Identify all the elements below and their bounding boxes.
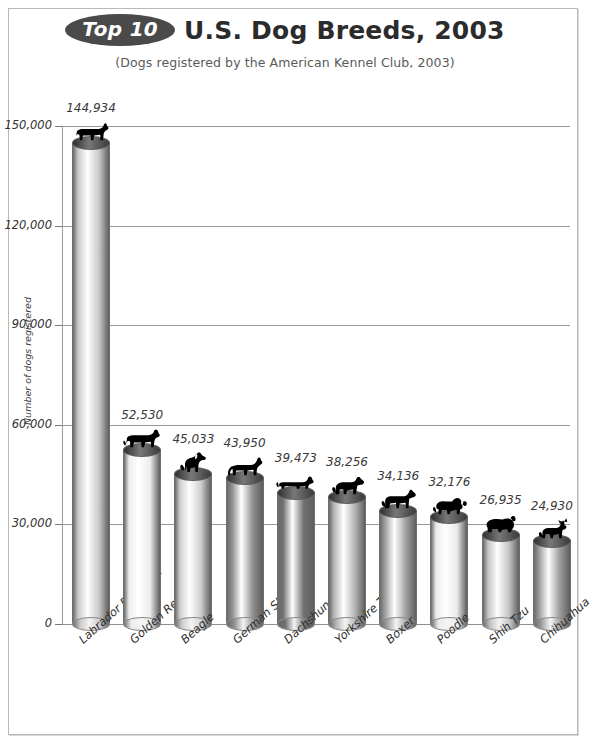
top-10-badge: Top 10 [65, 14, 175, 46]
page-title: U.S. Dog Breeds, 2003 [184, 16, 505, 45]
chart-frame [8, 8, 578, 735]
chart-subtitle: (Dogs registered by the American Kennel … [0, 55, 570, 70]
chart-header: Top 10 U.S. Dog Breeds, 2003 (Dogs regis… [0, 14, 570, 70]
title-row: Top 10 U.S. Dog Breeds, 2003 [0, 14, 570, 46]
